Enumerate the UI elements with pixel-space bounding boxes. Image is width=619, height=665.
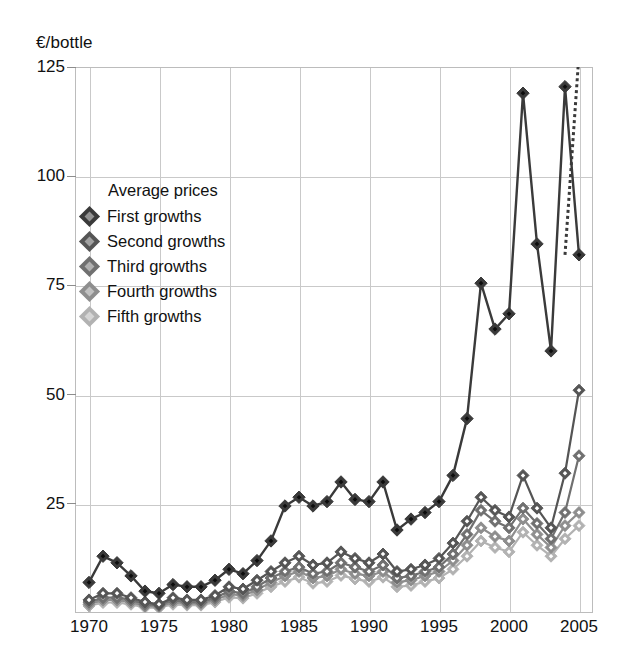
y-axis-tick-mark [67,503,76,504]
legend-item-label: Fifth growths [107,306,201,327]
legend-item-label: First growths [107,206,201,227]
y-axis-tick-label: 25 [5,495,65,512]
y-axis-tick-mark [67,285,76,286]
gridline-vertical [440,68,441,612]
chart-figure: €/bottle 255075100125 197019751980198519… [0,0,619,665]
gridline-vertical [370,68,371,612]
legend-item-fourth[interactable]: Fourth growths [82,279,225,304]
x-axis-tick-label: 1975 [129,618,189,635]
x-axis-tick-label: 1990 [339,618,399,635]
legend-diamond-icon [79,281,100,302]
x-axis-tick-label: 2005 [549,618,609,635]
gridline-horizontal [76,505,592,506]
legend-diamond-icon [79,206,100,227]
plot-area [75,67,593,613]
y-axis-tick-mark [67,67,76,68]
legend-item-label: Third growths [107,256,207,277]
y-axis-tick-label: 75 [5,276,65,293]
legend-item-fifth[interactable]: Fifth growths [82,304,225,329]
legend-title: Average prices [108,180,225,201]
legend-item-label: Fourth growths [107,281,217,302]
x-axis-tick-label: 2000 [479,618,539,635]
gridline-vertical [90,68,91,612]
gridline-vertical [300,68,301,612]
legend-item-second[interactable]: Second growths [82,229,225,254]
legend-item-first[interactable]: First growths [82,204,225,229]
y-axis-tick-label: 100 [5,167,65,184]
gridline-horizontal [76,396,592,397]
gridline-vertical [230,68,231,612]
y-axis-tick-mark [67,176,76,177]
legend-diamond-icon [79,306,100,327]
x-axis-tick-label: 1985 [269,618,329,635]
legend-diamond-icon [79,231,100,252]
y-axis-tick-mark [67,394,76,395]
legend: Average prices First growthsSecond growt… [82,180,225,329]
legend-diamond-icon [79,256,100,277]
y-axis-tick-label: 50 [5,386,65,403]
y-axis-unit-label: €/bottle [36,33,93,53]
gridline-horizontal [76,177,592,178]
legend-item-label: Second growths [107,231,225,252]
x-axis-tick-label: 1970 [59,618,119,635]
legend-item-third[interactable]: Third growths [82,254,225,279]
gridline-vertical [580,68,581,612]
y-axis-tick-label: 125 [5,58,65,75]
gridline-vertical [160,68,161,612]
gridline-vertical [510,68,511,612]
x-axis-tick-label: 1980 [199,618,259,635]
x-axis-tick-label: 1995 [409,618,469,635]
